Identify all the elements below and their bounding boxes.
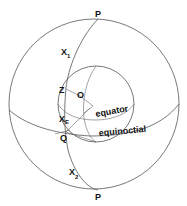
meridian-arc (65, 19, 98, 190)
label-xe-sub: E (65, 119, 69, 125)
label-x2-sub: 2 (75, 174, 79, 180)
line-q-center (66, 132, 96, 142)
inner-meridian (84, 66, 97, 142)
label-equinoctial: equinoctial (98, 124, 146, 138)
label-x1-sub: 1 (67, 53, 71, 59)
label-q: Q (60, 133, 67, 143)
label-z: Z (59, 85, 65, 95)
label-p-bottom: P (95, 192, 101, 202)
label-equator: equator (95, 103, 130, 119)
label-p-top: P (95, 9, 101, 19)
outer-sphere (9, 19, 179, 189)
label-o: O (77, 90, 84, 100)
celestial-sphere-diagram: P P X 1 Z O X E Q X 2 equator equinoctia… (0, 0, 187, 206)
